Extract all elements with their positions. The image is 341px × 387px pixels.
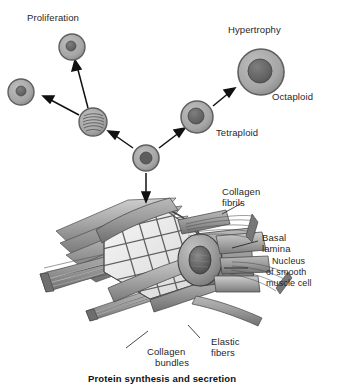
label-octaploid: Octaploid — [272, 91, 313, 102]
label-elastic-fibers-line1: Elastic — [211, 336, 240, 347]
arrow-parent-to-tetraploid — [159, 128, 185, 148]
label-proliferation: Proliferation — [27, 12, 79, 23]
arrow-tetraploid-to-octaploid — [213, 88, 235, 106]
cell-octaploid — [238, 49, 284, 95]
label-nucleus-line2: of smooth — [266, 267, 306, 278]
cell-tetraploid — [181, 101, 213, 133]
cell-daughter-left — [8, 79, 34, 105]
label-collagen-bundles-line2: bundles — [155, 357, 189, 368]
label-basal-lamina-line2: lamina — [262, 243, 291, 254]
label-tetraploid: Tetraploid — [216, 127, 258, 138]
arrow-mitotic-to-left-cell — [43, 96, 79, 115]
figure-caption: Protein synthesis and secretion — [88, 373, 236, 384]
cell-mitotic — [79, 108, 107, 136]
label-nucleus-line3: muscle cell — [266, 278, 312, 289]
label-hypertrophy: Hypertrophy — [228, 24, 281, 35]
figure-canvas: Proliferation Hypertrophy Octaploid Tetr… — [0, 0, 341, 387]
arrow-parent-to-mitotic — [108, 131, 133, 148]
arrow-mitotic-to-top-cell — [72, 60, 88, 108]
label-collagen-fibrils-line1: Collagen — [222, 186, 260, 197]
label-basal-lamina-line1: Basal — [262, 232, 286, 243]
cell-parent — [133, 145, 159, 171]
label-nucleus-line1: Nucleus — [272, 256, 305, 267]
label-collagen-fibrils-line2: fibrils — [222, 197, 245, 208]
cell-daughter-top — [59, 34, 85, 60]
label-collagen-bundles-line1: Collagen — [147, 346, 185, 357]
label-elastic-fibers-line2: fibers — [211, 347, 235, 358]
cell-pathway-diagram — [0, 0, 341, 387]
